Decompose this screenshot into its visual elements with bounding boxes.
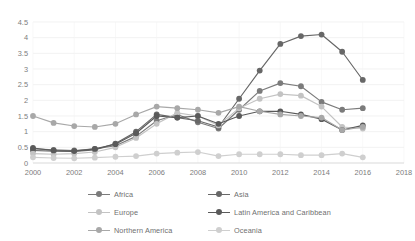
x-axis-tick-label: 2006 bbox=[148, 168, 164, 177]
data-point bbox=[216, 153, 222, 159]
y-axis-tick-label: 2 bbox=[24, 96, 28, 105]
data-point bbox=[339, 49, 345, 55]
data-point bbox=[257, 88, 263, 94]
data-point bbox=[71, 155, 77, 161]
data-point bbox=[113, 154, 119, 160]
data-point bbox=[298, 33, 304, 39]
data-point bbox=[154, 113, 160, 119]
y-axis-tick-label: 0 bbox=[24, 159, 28, 168]
data-point bbox=[174, 105, 180, 111]
legend-item-oceania[interactable]: Oceania bbox=[208, 226, 388, 235]
legend-dot bbox=[216, 191, 222, 197]
y-axis-tick-label: 3 bbox=[24, 65, 28, 74]
legend-marker-icon bbox=[88, 208, 110, 217]
data-point bbox=[30, 154, 36, 160]
x-axis-tick-label: 2018 bbox=[396, 168, 412, 177]
x-axis-tick-label: 2002 bbox=[66, 168, 82, 177]
legend-marker-icon bbox=[88, 190, 110, 199]
data-point bbox=[154, 151, 160, 157]
y-axis: 00.511.522.533.544.5 bbox=[18, 18, 28, 168]
legend-label: Asia bbox=[234, 190, 249, 199]
data-point bbox=[236, 96, 242, 102]
gridlines bbox=[33, 22, 404, 163]
y-axis-tick-label: 4 bbox=[24, 33, 28, 42]
data-point bbox=[277, 91, 283, 97]
data-point bbox=[257, 108, 263, 114]
y-axis-tick-label: 4.5 bbox=[18, 18, 28, 27]
data-point bbox=[133, 153, 139, 159]
x-axis-tick-label: 2010 bbox=[231, 168, 247, 177]
data-point bbox=[339, 127, 345, 133]
data-point bbox=[195, 107, 201, 113]
data-point bbox=[216, 121, 222, 127]
data-point bbox=[51, 155, 57, 161]
y-axis-tick-label: 3.5 bbox=[18, 49, 28, 58]
y-axis-tick-label: 2.5 bbox=[18, 80, 28, 89]
data-point bbox=[71, 123, 77, 129]
legend-label: Africa bbox=[114, 190, 133, 199]
data-point bbox=[30, 145, 36, 151]
data-point bbox=[360, 124, 366, 130]
y-axis-tick-label: 0.5 bbox=[18, 143, 28, 152]
legend-marker-icon bbox=[208, 208, 230, 217]
legend-dot bbox=[216, 209, 222, 215]
legend-dot bbox=[96, 227, 102, 233]
y-axis-tick-label: 1.5 bbox=[18, 112, 28, 121]
data-point bbox=[236, 113, 242, 119]
legend-dot bbox=[216, 227, 222, 233]
x-axis-tick-label: 2000 bbox=[25, 168, 41, 177]
legend-dot bbox=[96, 209, 102, 215]
x-axis-tick-label: 2004 bbox=[107, 168, 123, 177]
data-point bbox=[319, 115, 325, 121]
data-point bbox=[339, 151, 345, 157]
data-point bbox=[277, 151, 283, 157]
x-axis-tick-label: 2014 bbox=[313, 168, 329, 177]
data-point bbox=[216, 110, 222, 116]
x-axis: 2000200220042006200820102012201420162018 bbox=[25, 168, 412, 177]
legend-item-northern-america[interactable]: Northern America bbox=[88, 226, 208, 235]
data-point bbox=[133, 112, 139, 118]
data-point bbox=[298, 93, 304, 99]
data-point bbox=[236, 151, 242, 157]
data-point bbox=[195, 113, 201, 119]
data-point bbox=[133, 130, 139, 136]
data-point bbox=[92, 124, 98, 130]
data-point bbox=[257, 96, 263, 102]
legend-label: Latin America and Caribbean bbox=[234, 208, 331, 217]
legend-item-latin-america-and-caribbean[interactable]: Latin America and Caribbean bbox=[208, 208, 388, 217]
legend-item-asia[interactable]: Asia bbox=[208, 190, 388, 199]
data-point bbox=[339, 107, 345, 113]
data-point bbox=[298, 83, 304, 89]
legend-dot bbox=[96, 191, 102, 197]
legend-marker-icon bbox=[208, 226, 230, 235]
data-point bbox=[113, 121, 119, 127]
x-axis-tick-label: 2012 bbox=[272, 168, 288, 177]
legend-item-europe[interactable]: Europe bbox=[88, 208, 208, 217]
gridlines-vertical bbox=[33, 22, 404, 163]
data-point bbox=[174, 150, 180, 156]
data-point bbox=[277, 112, 283, 118]
data-point bbox=[236, 104, 242, 110]
data-point bbox=[174, 115, 180, 121]
legend-label: Europe bbox=[114, 208, 138, 217]
data-point bbox=[113, 141, 119, 147]
legend-item-africa[interactable]: Africa bbox=[88, 190, 208, 199]
data-point bbox=[298, 113, 304, 119]
data-point bbox=[51, 148, 57, 154]
data-point bbox=[319, 32, 325, 38]
data-point bbox=[30, 113, 36, 119]
data-point bbox=[195, 149, 201, 155]
data-point bbox=[92, 146, 98, 152]
legend-label: Northern America bbox=[114, 226, 172, 235]
data-point bbox=[277, 41, 283, 47]
legend-marker-icon bbox=[208, 190, 230, 199]
data-point bbox=[360, 105, 366, 111]
data-point bbox=[92, 155, 98, 161]
x-axis-tick-label: 2016 bbox=[355, 168, 371, 177]
data-point bbox=[319, 104, 325, 110]
x-axis-tick-label: 2008 bbox=[190, 168, 206, 177]
data-point bbox=[277, 80, 283, 86]
data-point bbox=[154, 104, 160, 110]
data-point bbox=[71, 148, 77, 154]
y-axis-tick-label: 1 bbox=[24, 127, 28, 136]
